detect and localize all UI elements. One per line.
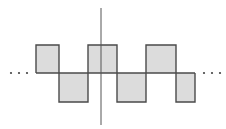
wave-segment-high: [146, 45, 176, 73]
ellipsis-dot: [18, 72, 20, 74]
square-wave-diagram: [0, 0, 226, 129]
ellipsis-dot: [26, 72, 28, 74]
wave-segment-high: [88, 45, 117, 73]
left-ellipsis: [10, 72, 28, 74]
wave-segment-low: [117, 73, 146, 102]
wave-segment-low: [176, 73, 195, 102]
ellipsis-dot: [203, 72, 205, 74]
wave-segment-low: [59, 73, 88, 102]
ellipsis-dot: [219, 72, 221, 74]
ellipsis-dot: [10, 72, 12, 74]
wave-segment-high: [36, 45, 59, 73]
right-ellipsis: [203, 72, 221, 74]
ellipsis-dot: [211, 72, 213, 74]
